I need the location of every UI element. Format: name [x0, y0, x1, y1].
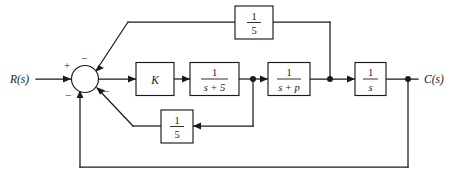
block-feedback-gain-bottom-denominator: 5: [174, 129, 179, 140]
arrowhead-into-lag5: [182, 76, 190, 83]
arrowhead-into-lagp: [260, 76, 268, 83]
summing-junction[interactable]: + − − −: [64, 52, 109, 101]
block-lag-s-plus-p-denominator: s + p: [278, 82, 300, 93]
wire-top-feedback-diagonal: [97, 22, 129, 70]
block-gain-k-label: K: [150, 74, 160, 86]
block-feedback-gain-top-numerator: 1: [251, 11, 256, 22]
block-feedback-gain-bottom[interactable]: 1 5: [161, 110, 193, 143]
block-lag-s-plus-p[interactable]: 1 s + p: [268, 63, 310, 96]
block-feedback-gain-top[interactable]: 1 5: [235, 6, 273, 39]
block-lag-s-plus-5-numerator: 1: [212, 67, 217, 78]
block-gain-k[interactable]: K: [136, 63, 174, 96]
block-lag-s-plus-5-denominator: s + 5: [204, 82, 226, 93]
arrowhead-into-integrator: [347, 76, 355, 83]
block-integrator-numerator: 1: [368, 67, 373, 78]
output-signal-label: C(s): [424, 73, 444, 86]
arrowhead-into-bottom-gain: [193, 123, 201, 130]
arrowhead-into-sum: [63, 76, 71, 83]
control-system-block-diagram: + − − − K 1 s + 5 1 s + p 1: [0, 0, 460, 183]
block-feedback-gain-bottom-numerator: 1: [174, 115, 179, 126]
input-signal-label: R(s): [9, 73, 29, 86]
sign-minus-outer-feedback: −: [65, 89, 71, 101]
block-feedback-gain-top-denominator: 5: [251, 25, 256, 36]
block-diagram-canvas: + − − − K 1 s + 5 1 s + p 1: [0, 0, 460, 183]
sign-plus-input: +: [64, 59, 70, 71]
block-integrator-denominator: s: [368, 82, 372, 93]
block-lag-s-plus-p-numerator: 1: [286, 67, 291, 78]
summing-junction-circle: [72, 66, 99, 93]
block-lag-s-plus-5[interactable]: 1 s + 5: [190, 63, 239, 96]
block-integrator[interactable]: 1 s: [355, 63, 386, 96]
arrowhead-into-gain-k: [128, 76, 136, 83]
sign-minus-top-feedback: −: [81, 52, 87, 64]
sign-minus-inner-feedback: −: [103, 85, 109, 97]
